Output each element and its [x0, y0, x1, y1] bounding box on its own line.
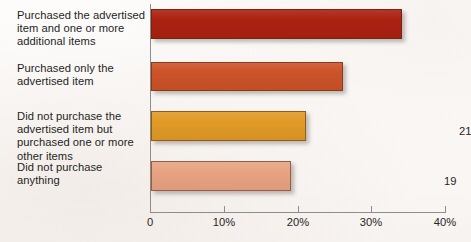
bar-sheen: [152, 162, 290, 190]
x-tick-label-0: 0: [147, 216, 153, 228]
category-label-did-not-purchase-anything: Did not purchase anything: [17, 161, 149, 187]
x-tick-label-10: 10%: [213, 216, 235, 228]
x-tick-0: [150, 206, 151, 213]
category-label-purchased-only-advertised: Purchased only the advertised item: [17, 62, 149, 88]
x-tick-40: [445, 206, 446, 213]
bar-no-advertised-but-other: [151, 111, 306, 141]
bar-sheen: [152, 63, 342, 90]
x-tick-label-30: 30%: [360, 216, 382, 228]
category-label-no-advertised-but-other: Did not purchase the advertised item but…: [17, 110, 149, 163]
x-tick-20: [298, 206, 299, 213]
plot-area: 0 10% 20% 30% 40% 34 26 21 19: [150, 0, 446, 213]
bar-purchased-advertised-plus-additional: [151, 9, 402, 39]
bar-sheen: [152, 10, 401, 38]
x-tick-label-40: 40%: [434, 216, 456, 228]
bar-value-label-19: 19: [444, 175, 456, 187]
bar-did-not-purchase-anything: [151, 161, 291, 191]
x-tick-label-20: 20%: [287, 216, 309, 228]
bar-sheen: [152, 112, 305, 140]
x-tick-30: [371, 206, 372, 213]
horizontal-bar-chart: Purchased the advertised item and one or…: [0, 0, 471, 242]
category-label-purchased-advertised-plus-additional: Purchased the advertised item and one or…: [17, 9, 149, 49]
x-tick-10: [224, 206, 225, 213]
bar-purchased-only-advertised: [151, 62, 343, 91]
bar-value-label-21: 21: [459, 125, 471, 137]
